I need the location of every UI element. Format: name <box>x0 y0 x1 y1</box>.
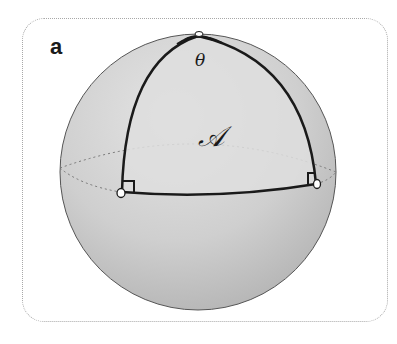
panel-label: a <box>50 34 62 60</box>
pole-point <box>195 32 203 37</box>
vertex-right <box>314 180 321 189</box>
angle-label-theta: θ <box>195 50 205 70</box>
vertex-left <box>117 189 125 198</box>
area-label: 𝒜 <box>198 120 224 154</box>
